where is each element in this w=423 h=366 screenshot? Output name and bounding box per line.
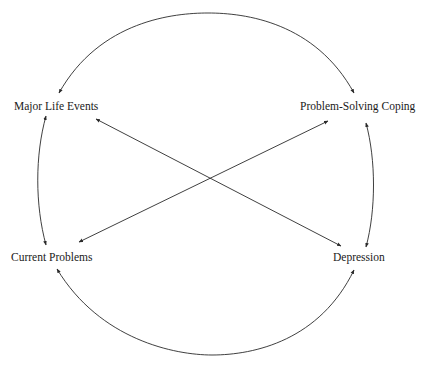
edge-current-problems-depression bbox=[57, 269, 354, 355]
node-major-life-events: Major Life Events bbox=[14, 101, 98, 113]
edge-major-life-events-problem-solving-coping bbox=[59, 13, 354, 93]
edge-major-life-events-current-problems bbox=[38, 116, 46, 245]
edge-major-life-events-depression bbox=[96, 119, 341, 246]
node-depression: Depression bbox=[333, 252, 385, 264]
edge-problem-solving-coping-current-problems bbox=[79, 121, 328, 242]
diagram-canvas bbox=[0, 0, 423, 366]
node-current-problems: Current Problems bbox=[11, 252, 92, 264]
edge-problem-solving-coping-depression bbox=[366, 123, 374, 247]
node-problem-solving-coping: Problem-Solving Coping bbox=[300, 101, 415, 113]
relationship-diagram: Major Life Events Problem-Solving Coping… bbox=[0, 0, 423, 366]
